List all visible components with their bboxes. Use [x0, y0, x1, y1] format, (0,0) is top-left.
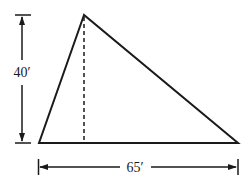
- base-label: 65′: [126, 160, 143, 175]
- arrow-left-icon: [39, 164, 48, 170]
- triangle-diagram: 40′ 65′: [0, 0, 250, 189]
- arrow-up-icon: [19, 16, 25, 25]
- arrow-down-icon: [19, 133, 25, 142]
- arrow-right-icon: [228, 164, 237, 170]
- height-label: 40′: [13, 65, 30, 80]
- triangle: [39, 15, 238, 143]
